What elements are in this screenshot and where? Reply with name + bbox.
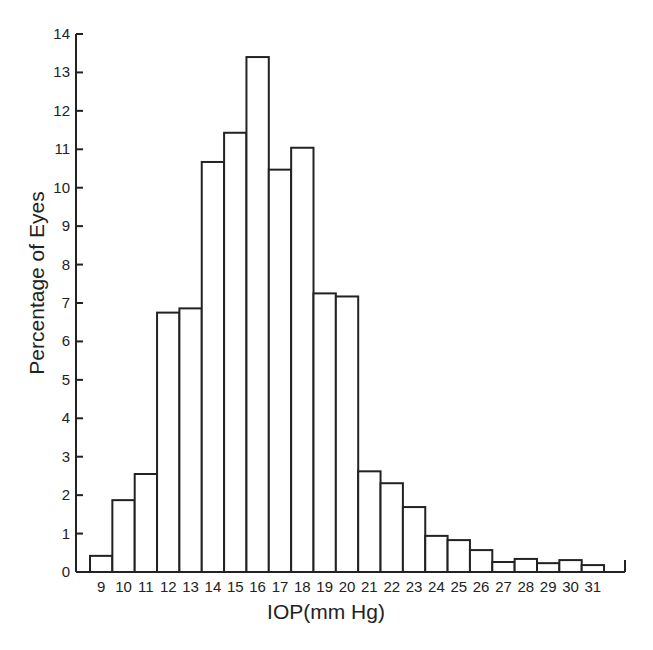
histogram-bar (537, 563, 559, 572)
y-tick-label: 2 (62, 486, 70, 503)
y-tick-label: 9 (62, 217, 70, 234)
y-tick-label: 10 (53, 179, 70, 196)
histogram-bar (336, 296, 358, 572)
histogram-chart: 01234567891011121314 9101112131415161718… (0, 0, 653, 650)
x-tick-label: 30 (562, 578, 579, 595)
histogram-bar (291, 148, 313, 572)
x-tick-label: 26 (473, 578, 490, 595)
histogram-bar (179, 308, 201, 572)
histogram-bar (515, 559, 537, 572)
x-tick-label: 21 (361, 578, 378, 595)
y-tick-label: 8 (62, 256, 70, 273)
histogram-bar (425, 536, 447, 572)
histogram-bar (582, 565, 604, 572)
x-tick-label: 17 (272, 578, 289, 595)
x-tick-label: 11 (138, 578, 154, 595)
x-tick-label: 16 (249, 578, 266, 595)
x-tick-label: 9 (97, 578, 105, 595)
x-tick-label: 22 (383, 578, 400, 595)
x-tick-label: 19 (316, 578, 333, 595)
histogram-bar (470, 550, 492, 572)
histogram-bar (224, 133, 246, 572)
x-tick-label: 25 (450, 578, 467, 595)
y-tick-label: 13 (53, 63, 70, 80)
x-tick-label: 27 (495, 578, 512, 595)
y-tick-label: 11 (54, 140, 70, 157)
x-tick-label: 29 (540, 578, 557, 595)
y-axis: 01234567891011121314 (53, 25, 83, 580)
histogram-bar (448, 540, 470, 572)
x-tick-label: 10 (115, 578, 132, 595)
y-tick-label: 12 (53, 102, 70, 119)
histogram-bar (202, 162, 224, 572)
x-tick-label: 15 (227, 578, 244, 595)
histogram-bar (559, 560, 581, 572)
y-tick-label: 1 (62, 525, 70, 542)
histogram-bar (112, 500, 134, 572)
y-axis-title: Percentage of Eyes (25, 191, 48, 374)
bar-series (90, 57, 604, 572)
x-axis-title: IOP(mm Hg) (267, 600, 385, 623)
x-tick-label: 20 (339, 578, 356, 595)
histogram-bar (381, 483, 403, 572)
y-tick-label: 4 (62, 409, 70, 426)
histogram-bar (492, 562, 514, 572)
histogram-bar (403, 507, 425, 572)
y-tick-label: 3 (62, 448, 70, 465)
histogram-bar (269, 170, 291, 572)
histogram-bar (157, 313, 179, 572)
x-tick-label: 14 (205, 578, 222, 595)
y-tick-label: 6 (62, 332, 70, 349)
x-tick-label: 13 (182, 578, 199, 595)
y-tick-label: 14 (53, 25, 70, 42)
x-tick-label: 31 (585, 578, 602, 595)
histogram-bar (246, 57, 268, 572)
histogram-bar (314, 293, 336, 572)
x-tick-label: 28 (517, 578, 534, 595)
y-tick-label: 5 (62, 371, 70, 388)
histogram-bar (358, 471, 380, 572)
x-tick-label: 24 (428, 578, 445, 595)
y-tick-label: 7 (62, 294, 70, 311)
x-tick-label: 12 (160, 578, 177, 595)
y-tick-label: 0 (62, 563, 70, 580)
x-tick-label: 23 (406, 578, 423, 595)
histogram-bar (90, 556, 112, 572)
x-tick-label: 18 (294, 578, 311, 595)
histogram-bar (135, 474, 157, 572)
